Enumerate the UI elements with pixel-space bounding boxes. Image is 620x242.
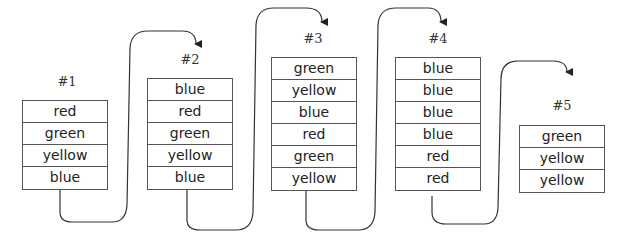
stack-cell: blue xyxy=(396,80,480,102)
stack-cell: yellow xyxy=(520,148,604,170)
stack-cell: red xyxy=(23,101,107,123)
stack-5: greenyellowyellow xyxy=(519,125,605,193)
stack-cell: yellow xyxy=(23,145,107,167)
stack-label: #1 xyxy=(47,74,87,89)
stack-cell: red xyxy=(396,146,480,168)
stack-3: greenyellowblueredgreenyellow xyxy=(271,57,357,191)
stack-cell: blue xyxy=(396,58,480,80)
stack-label: #3 xyxy=(293,31,333,46)
stack-label: #4 xyxy=(418,31,458,46)
stack-cell: blue xyxy=(396,124,480,146)
stack-cell: blue xyxy=(148,167,232,189)
stack-cell: red xyxy=(396,168,480,190)
stack-cell: green xyxy=(23,123,107,145)
stack-cell: green xyxy=(520,126,604,148)
stack-cell: yellow xyxy=(148,145,232,167)
stack-cell: red xyxy=(148,101,232,123)
stack-cell: green xyxy=(272,146,356,168)
stack-4: blueblueblueblueredred xyxy=(395,57,481,191)
stack-label: #5 xyxy=(542,98,582,113)
stack-cell: yellow xyxy=(272,80,356,102)
stack-cell: blue xyxy=(23,167,107,189)
stack-cell: yellow xyxy=(272,168,356,190)
stack-1: redgreenyellowblue xyxy=(22,100,108,190)
stack-cell: red xyxy=(272,124,356,146)
stack-cell: yellow xyxy=(520,170,604,192)
stack-2: blueredgreenyellowblue xyxy=(147,78,233,190)
stack-cell: blue xyxy=(272,102,356,124)
stack-cell: green xyxy=(148,123,232,145)
stack-cell: green xyxy=(272,58,356,80)
stack-cell: blue xyxy=(396,102,480,124)
stack-cell: blue xyxy=(148,79,232,101)
stack-label: #2 xyxy=(170,52,210,67)
